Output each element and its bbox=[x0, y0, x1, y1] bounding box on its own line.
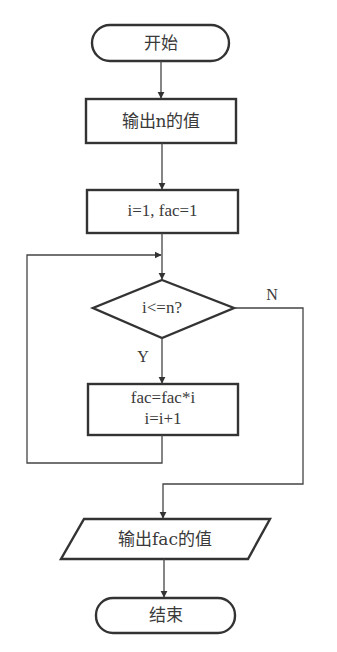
flowchart-canvas bbox=[0, 0, 337, 652]
loop-body-line1: fac=fac*i bbox=[88, 387, 238, 409]
loop-body-line2: i=i+1 bbox=[88, 408, 238, 430]
output-fac-label: 输出fac的值 bbox=[70, 528, 260, 550]
output-n-label: 输出n的值 bbox=[86, 110, 236, 132]
edge-label-no: N bbox=[262, 285, 282, 305]
start-label: 开始 bbox=[92, 32, 229, 54]
init-label: i=1, fac=1 bbox=[87, 200, 238, 222]
condition-label: i<=n? bbox=[120, 298, 204, 318]
edge-label-yes: Y bbox=[133, 347, 153, 367]
end-label: 结束 bbox=[96, 604, 235, 626]
